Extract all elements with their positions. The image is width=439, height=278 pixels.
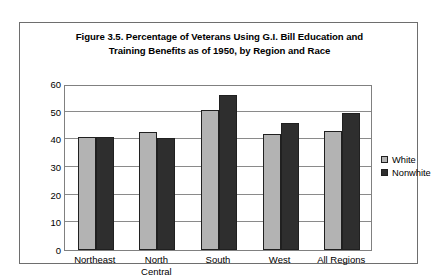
x-tick-label-northeast: Northeast (64, 254, 126, 266)
bar-white-all-regions (324, 131, 342, 250)
legend-label: Nonwhite (392, 168, 431, 178)
legend-item-nonwhite: Nonwhite (381, 166, 431, 179)
y-tick-label-50: 50 (39, 108, 61, 118)
bar-nonwhite-all-regions (342, 113, 360, 250)
x-tick-label-line-1: West (249, 254, 311, 266)
bar-white-west (263, 134, 281, 250)
y-tick-label-20: 20 (39, 191, 61, 201)
bar-nonwhite-north-central (157, 138, 175, 250)
bar-nonwhite-northeast (96, 137, 114, 250)
y-axis: 6050403020100 (39, 78, 61, 258)
y-tick-label-40: 40 (39, 135, 61, 145)
bar-group (65, 86, 127, 250)
plot-area (64, 85, 372, 251)
legend-swatch-icon (381, 156, 388, 163)
bar-group (188, 86, 250, 250)
bar-group (250, 86, 312, 250)
y-tick-label-10: 10 (39, 218, 61, 228)
bar-nonwhite-south (219, 95, 237, 250)
y-tick-label-30: 30 (39, 163, 61, 173)
x-tick-label-south: South (187, 254, 249, 266)
legend-item-white: White (381, 153, 431, 166)
x-tick-label-line-2: Central (126, 266, 188, 278)
x-tick-label-line-1: Northeast (64, 254, 126, 266)
figure-frame: Figure 3.5. Percentage of Veterans Using… (19, 22, 418, 264)
bar-group (127, 86, 189, 250)
chart-title-line-1: Figure 3.5. Percentage of Veterans Using… (28, 30, 411, 44)
y-tick-label-0: 0 (39, 246, 61, 256)
legend-label: White (392, 155, 416, 165)
bar-group (311, 86, 373, 250)
bar-nonwhite-west (281, 123, 299, 250)
x-axis: NortheastNorthCentralSouthWestAll Region… (64, 254, 372, 278)
bar-white-northeast (78, 137, 96, 250)
bar-white-north-central (139, 132, 157, 250)
x-tick-label-line-1: All Regions (310, 254, 372, 266)
x-tick-label-line-1: South (187, 254, 249, 266)
chart-title: Figure 3.5. Percentage of Veterans Using… (28, 30, 411, 58)
x-tick-label-line-1: North (126, 254, 188, 266)
x-tick-label-north-central: NorthCentral (126, 254, 188, 277)
legend-swatch-icon (381, 169, 388, 176)
y-tick-label-60: 60 (39, 80, 61, 90)
x-tick-label-west: West (249, 254, 311, 266)
chart-legend: WhiteNonwhite (379, 151, 433, 181)
x-tick-label-all-regions: All Regions (310, 254, 372, 266)
bar-white-south (201, 110, 219, 250)
chart-title-line-2: Training Benefits as of 1950, by Region … (28, 44, 411, 58)
